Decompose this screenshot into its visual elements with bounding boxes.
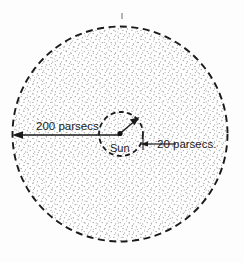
astronomy-figure: 200 parsecs 20 parsecs. Sun <box>0 0 244 263</box>
figure-canvas: 200 parsecs 20 parsecs. Sun <box>0 0 244 263</box>
outer-radius-label: 200 parsecs <box>36 120 99 132</box>
sun-label: Sun <box>110 142 130 154</box>
inner-radius-label: 20 parsecs. <box>157 138 216 150</box>
